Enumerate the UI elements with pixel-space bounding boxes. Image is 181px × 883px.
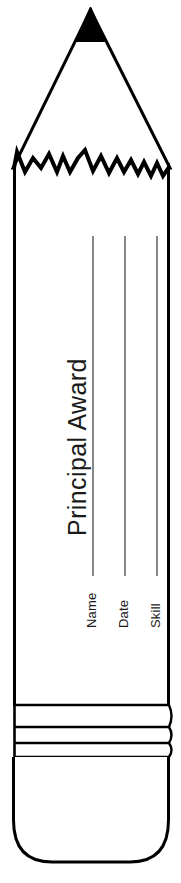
ferrule-bands-icon xyxy=(14,703,172,759)
pencil-barrel xyxy=(13,166,170,704)
pencil-illustration xyxy=(0,0,181,883)
eraser-icon xyxy=(14,757,169,862)
award-certificate-page: Principal Award Name Date Skill xyxy=(0,0,181,883)
pencil-tip-icon xyxy=(76,8,105,41)
